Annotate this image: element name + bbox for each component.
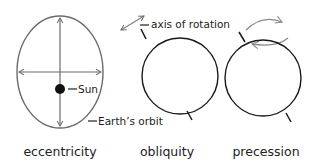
milankovitch-diagram: Sun Earth’s orbit eccentricity axis of r… xyxy=(0,0,319,165)
orbit-label: Earth’s orbit xyxy=(98,115,163,127)
eccentricity-panel: Sun Earth’s orbit eccentricity xyxy=(17,16,163,159)
precession-arrow-lower xyxy=(252,38,288,45)
precession-axis-bottom-tick xyxy=(286,113,291,122)
eccentricity-caption: eccentricity xyxy=(23,144,97,159)
obliquity-panel: axis of rotation obliquity xyxy=(121,16,230,159)
obliquity-caption: obliquity xyxy=(140,144,195,159)
earth-circle-obliquity xyxy=(142,38,218,114)
precession-panel: precession xyxy=(225,19,301,159)
earth-circle-precession xyxy=(225,40,301,116)
precession-caption: precession xyxy=(232,144,299,159)
axis-label: axis of rotation xyxy=(151,18,230,30)
precession-axis-top-tick xyxy=(239,32,245,42)
precession-arrow-upper xyxy=(246,19,282,30)
axis-top-tick xyxy=(141,29,146,39)
sun-icon xyxy=(55,84,65,94)
tilt-double-arrow xyxy=(121,16,144,30)
sun-label: Sun xyxy=(78,83,98,95)
